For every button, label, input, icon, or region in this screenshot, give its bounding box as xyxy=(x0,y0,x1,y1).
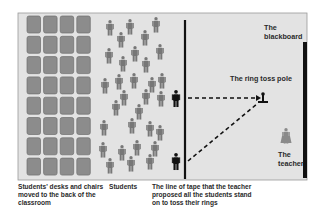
desk xyxy=(60,77,73,94)
desk xyxy=(27,36,41,53)
desks-caption-line2: moved to the back of the xyxy=(18,191,103,199)
desk xyxy=(27,77,41,94)
desk xyxy=(60,36,73,53)
desk xyxy=(77,138,91,155)
desk xyxy=(44,158,58,175)
blackboard xyxy=(303,42,307,178)
desk xyxy=(44,77,58,94)
desk xyxy=(77,16,91,33)
desk xyxy=(27,118,41,135)
students-caption: Students xyxy=(109,183,137,191)
desk xyxy=(60,57,73,74)
desk xyxy=(77,57,91,74)
desk xyxy=(60,118,73,135)
diagram-stage: The blackboard The ring toss pole The te… xyxy=(0,0,324,219)
desk xyxy=(27,158,41,175)
desk xyxy=(27,138,41,155)
desk xyxy=(60,97,73,114)
desks-caption-line1: Students' desks and chairs xyxy=(18,183,103,191)
tape-caption-line3: on to toss their rings xyxy=(152,199,252,207)
desk xyxy=(60,158,73,175)
blackboard-label-line2: blackboard xyxy=(264,33,302,42)
tape-caption-line1: The line of tape that the teacher xyxy=(152,183,252,191)
desk xyxy=(27,16,41,33)
desk xyxy=(27,57,41,74)
ring-toss-pole-label: The ring toss pole xyxy=(230,75,292,84)
desk xyxy=(44,16,58,33)
desk xyxy=(44,97,58,114)
desk xyxy=(77,36,91,53)
tape-line-caption: The line of tape that the teacher propos… xyxy=(152,183,252,207)
desk xyxy=(77,77,91,94)
desks-caption-line3: classroom xyxy=(18,199,103,207)
desk xyxy=(77,158,91,175)
desk xyxy=(44,36,58,53)
desk xyxy=(44,118,58,135)
teacher-label: The teacher xyxy=(278,151,304,168)
desk xyxy=(44,138,58,155)
desk xyxy=(27,97,41,114)
desk xyxy=(60,138,73,155)
teacher-label-line2: teacher xyxy=(278,160,304,169)
desks-caption: Students' desks and chairs moved to the … xyxy=(18,183,103,207)
desk xyxy=(77,118,91,135)
desk xyxy=(44,57,58,74)
desk xyxy=(77,97,91,114)
desk xyxy=(60,16,73,33)
tape-caption-line2: proposed all the students stand xyxy=(152,191,252,199)
blackboard-label: The blackboard xyxy=(264,24,302,41)
